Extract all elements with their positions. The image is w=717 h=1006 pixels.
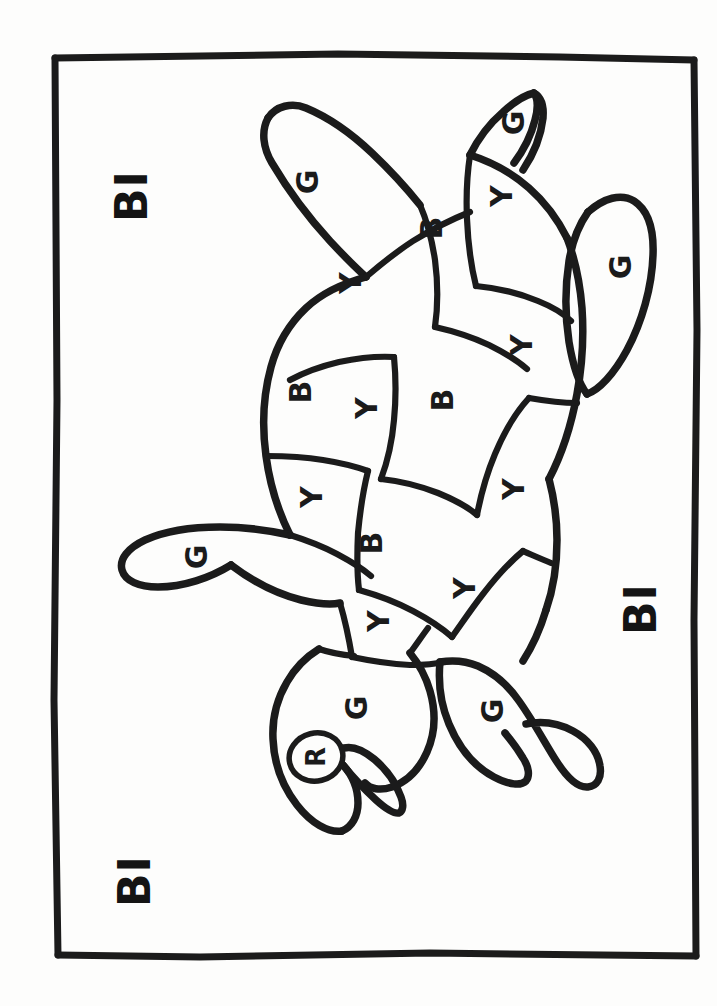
region-letter-shell-plate-2: B — [414, 217, 449, 240]
region-letter-rear-right-flipper: G — [603, 255, 638, 280]
corner-label-top-left: BI — [106, 170, 157, 222]
region-letter-shell-plate-1: Y — [333, 271, 368, 295]
region-letter-head-tip: G — [496, 111, 531, 136]
region-letter-shell-plate-12: Y — [361, 609, 396, 633]
region-letter-shell-plate-9: Y — [294, 485, 329, 509]
region-letter-rear-left-flipper: G — [475, 699, 510, 724]
region-letter-shell-plate-5: B — [283, 381, 318, 404]
region-letter-shell-plate-10: B — [354, 532, 389, 555]
corner-label-right-middle: BI — [615, 583, 666, 635]
region-letter-shell-plate-6: Y — [349, 396, 384, 420]
region-letter-head-body: G — [339, 696, 374, 721]
region-letter-front-left-flipper: G — [290, 170, 325, 195]
region-letter-shell-plate-3: Y — [484, 184, 519, 208]
region-letter-shell-plate-4: Y — [504, 333, 539, 357]
region-letter-shell-plate-11: Y — [447, 576, 482, 600]
worksheet-sheet: GGYBYGYBYBYYBYYGGRG BIBIBI GGYBYGYBYBYYB… — [0, 0, 717, 1006]
region-letter-shell-plate-7: B — [425, 389, 460, 412]
region-letter-shell-plate-8: Y — [496, 477, 531, 501]
corner-label-bottom-left: BI — [109, 855, 160, 907]
coloring-page-artwork: GGYBYGYBYBYYBYYGGRG BIBIBI — [0, 0, 717, 1006]
region-letter-front-right-flipper: G — [179, 545, 214, 570]
region-letter-head-eye: R — [301, 747, 331, 767]
